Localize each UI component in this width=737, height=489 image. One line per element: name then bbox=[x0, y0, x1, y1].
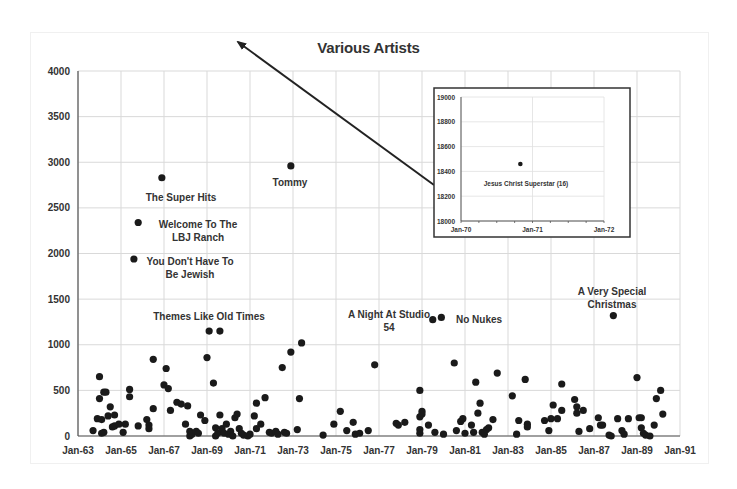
annotation-label: A Night At Studio bbox=[348, 309, 430, 320]
data-point bbox=[474, 410, 481, 417]
y-tick-label: 3500 bbox=[48, 111, 71, 122]
data-point bbox=[158, 174, 165, 181]
data-point bbox=[126, 386, 133, 393]
data-point bbox=[320, 431, 327, 438]
annotation-label: No Nukes bbox=[456, 314, 503, 325]
data-point bbox=[279, 364, 286, 371]
data-point bbox=[296, 395, 303, 402]
data-point bbox=[573, 410, 580, 417]
data-point bbox=[251, 412, 258, 419]
inset-x-tick-label: Jan-72 bbox=[594, 226, 615, 233]
inset-data-point bbox=[518, 162, 523, 167]
x-tick-label: Jan-83 bbox=[492, 445, 524, 456]
data-point bbox=[298, 339, 305, 346]
data-point bbox=[476, 400, 483, 407]
annotation-label: The Super Hits bbox=[146, 192, 217, 203]
data-point bbox=[229, 432, 236, 439]
data-point bbox=[96, 395, 103, 402]
x-tick-label: Jan-89 bbox=[621, 445, 653, 456]
data-point bbox=[472, 379, 479, 386]
data-point bbox=[614, 415, 621, 422]
annotation-label: You Don't Have To bbox=[146, 256, 233, 267]
data-point bbox=[509, 392, 516, 399]
scatter-chart: 05001000150020002500300035004000 Jan-63J… bbox=[0, 0, 737, 489]
data-point bbox=[257, 421, 264, 428]
data-point bbox=[371, 361, 378, 368]
data-point bbox=[610, 312, 617, 319]
data-point bbox=[343, 427, 350, 434]
data-point bbox=[96, 373, 103, 380]
data-point bbox=[451, 359, 458, 366]
inset-x-tick-label: Jan-71 bbox=[522, 226, 543, 233]
annotation-label: A Very Special bbox=[578, 286, 647, 297]
data-point bbox=[401, 419, 408, 426]
data-point bbox=[203, 354, 210, 361]
data-point bbox=[135, 219, 142, 226]
data-point bbox=[246, 431, 253, 438]
data-point bbox=[223, 421, 230, 428]
x-tick-label: Jan-67 bbox=[148, 445, 180, 456]
data-point bbox=[657, 387, 664, 394]
x-tick-label: Jan-87 bbox=[578, 445, 610, 456]
data-point bbox=[416, 430, 423, 437]
data-point bbox=[287, 348, 294, 355]
data-point bbox=[625, 415, 632, 422]
x-tick-label: Jan-85 bbox=[535, 445, 567, 456]
data-point bbox=[261, 394, 268, 401]
y-tick-label: 500 bbox=[53, 385, 70, 396]
data-point bbox=[453, 427, 460, 434]
y-tick-label: 1000 bbox=[48, 339, 71, 350]
data-point bbox=[541, 417, 548, 424]
inset-y-tick-label: 18800 bbox=[437, 118, 455, 125]
data-point bbox=[365, 427, 372, 434]
data-point bbox=[522, 376, 529, 383]
data-point bbox=[638, 414, 645, 421]
data-point bbox=[294, 426, 301, 433]
data-point bbox=[429, 316, 436, 323]
y-tick-label: 4000 bbox=[48, 66, 71, 77]
data-point bbox=[395, 421, 402, 428]
annotation-label: LBJ Ranch bbox=[172, 232, 224, 243]
data-point bbox=[126, 393, 133, 400]
data-point bbox=[468, 421, 475, 428]
data-point bbox=[135, 422, 142, 429]
data-point bbox=[287, 162, 294, 169]
data-point bbox=[184, 402, 191, 409]
y-tick-label: 1500 bbox=[48, 294, 71, 305]
data-point bbox=[107, 403, 114, 410]
data-point bbox=[356, 430, 363, 437]
data-point bbox=[515, 417, 522, 424]
data-point bbox=[573, 403, 580, 410]
y-axis-ticks: 05001000150020002500300035004000 bbox=[48, 66, 71, 442]
inset-x-tick-label: Jan-70 bbox=[451, 226, 472, 233]
data-point bbox=[337, 408, 344, 415]
data-point bbox=[494, 369, 501, 376]
data-point bbox=[438, 314, 445, 321]
data-point bbox=[431, 429, 438, 436]
data-point bbox=[105, 412, 112, 419]
x-tick-label: Jan-71 bbox=[234, 445, 266, 456]
data-point bbox=[554, 415, 561, 422]
data-point bbox=[234, 411, 241, 418]
data-point bbox=[350, 419, 357, 426]
x-tick-label: Jan-69 bbox=[191, 445, 223, 456]
inset-y-tick-label: 19000 bbox=[437, 94, 455, 101]
x-tick-label: Jan-73 bbox=[277, 445, 309, 456]
x-axis-ticks: Jan-63Jan-65Jan-67Jan-69Jan-71Jan-73Jan-… bbox=[62, 445, 696, 456]
data-point bbox=[274, 431, 281, 438]
annotation-label: Themes Like Old Times bbox=[153, 311, 265, 322]
data-point bbox=[459, 415, 466, 422]
data-point bbox=[646, 432, 653, 439]
data-point bbox=[115, 421, 122, 428]
y-tick-label: 2000 bbox=[48, 248, 71, 259]
data-point bbox=[621, 431, 628, 438]
x-tick-label: Jan-77 bbox=[363, 445, 395, 456]
data-point bbox=[150, 356, 157, 363]
annotation-label: Tommy bbox=[273, 177, 308, 188]
y-tick-label: 2500 bbox=[48, 202, 71, 213]
data-point bbox=[253, 400, 260, 407]
data-point bbox=[89, 427, 96, 434]
data-point bbox=[513, 431, 520, 438]
data-point bbox=[130, 255, 137, 262]
data-point bbox=[120, 429, 127, 436]
